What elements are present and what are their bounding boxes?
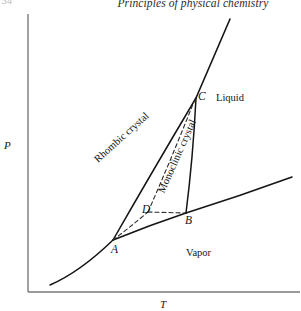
phase-diagram-figure (0, 0, 301, 311)
region-label-liquid: Liquid (216, 92, 244, 103)
curve-liquid-vapor (186, 177, 292, 213)
dashed-metastable-DB (148, 212, 185, 213)
x-axis-label: T (160, 298, 166, 310)
point-label-a: A (111, 243, 118, 255)
y-axis-label: P (4, 139, 11, 151)
curve-monoclinic-vapor (113, 213, 186, 240)
point-label-b: B (185, 214, 192, 226)
region-label-vapor: Vapor (186, 247, 211, 258)
line-rhombic-monoclinic-AC (113, 98, 196, 240)
line-rhombic-liquid-above-C (196, 19, 230, 98)
page: 34 Principles of physical chemistry P T … (0, 0, 301, 311)
line-monoclinic-liquid-BC (186, 98, 196, 213)
point-label-c: C (198, 90, 206, 102)
dashed-metastable-AD (113, 212, 148, 240)
curve-rhombic-vapor (50, 240, 113, 285)
point-label-d: D (142, 203, 150, 215)
